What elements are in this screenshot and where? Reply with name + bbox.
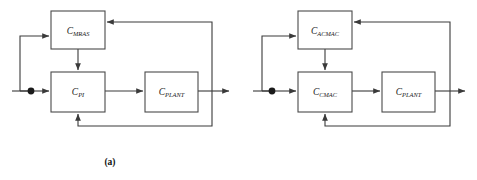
plant-block[interactable]: CPLANT <box>382 72 435 112</box>
summing-junction-node <box>269 88 276 95</box>
panel-a-caption: (a) <box>90 157 130 167</box>
diagram-panel-a: CMRAS CPI CPLANT (a) <box>0 0 240 180</box>
diagram-a-canvas: CMRAS CPI CPLANT <box>0 0 240 155</box>
diagram-b-canvas: CACMAC CCMAC CPLANT <box>240 0 477 155</box>
summing-junction-node <box>28 88 35 95</box>
block-diagram-figure: CMRAS CPI CPLANT (a) <box>0 0 477 180</box>
junction-to-adaptive-line <box>20 36 49 91</box>
controller-block[interactable]: CPI <box>51 72 105 112</box>
controller-block[interactable]: CCMAC <box>298 72 352 112</box>
diagram-panel-b: CACMAC CCMAC CPLANT (b) <box>240 0 477 180</box>
adaptive-block[interactable]: CACMAC <box>298 11 352 49</box>
adaptive-block[interactable]: CMRAS <box>51 11 105 49</box>
junction-to-adaptive-line <box>262 36 296 91</box>
plant-block[interactable]: CPLANT <box>145 72 198 112</box>
